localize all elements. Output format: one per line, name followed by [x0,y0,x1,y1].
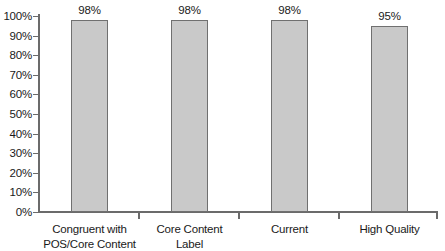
y-tick-mark [33,192,39,193]
bar-chart: 100% 90% 80% 70% 60% 50% 40% 30% 20% 10%… [0,0,445,251]
y-tick-mark [33,36,39,37]
bar-value-label: 95% [364,10,415,22]
bar-value-label: 98% [64,4,115,16]
y-tick-label: 80% [0,49,32,61]
x-tick-mark [238,213,240,219]
y-tick-mark [33,114,39,115]
y-tick-label: 60% [0,88,32,100]
y-tick-label: 30% [0,147,32,159]
bar-value-label: 98% [264,4,315,16]
category-label-line: High Quality [339,222,440,237]
x-tick-mark [138,213,140,219]
y-tick-label: 90% [0,30,32,42]
y-tick-mark [33,94,39,95]
y-tick-label: 0% [0,206,32,218]
y-tick-label: 40% [0,128,32,140]
y-tick-label: 100% [0,10,32,22]
x-tick-mark [338,213,340,219]
y-tick-mark [33,173,39,174]
y-tick-label: 10% [0,186,32,198]
category-label-high-quality: High Quality [339,222,440,237]
bar-value-label: 98% [164,4,215,16]
category-label-core-content-label: Core Content Label [129,222,250,251]
y-tick-mark [33,153,39,154]
category-label-line: Current [239,222,340,237]
x-tick-mark [436,213,438,219]
bar-core-content-label[interactable] [171,20,208,212]
y-tick-mark [33,55,39,56]
y-tick-mark [33,212,39,213]
y-tick-label: 70% [0,69,32,81]
y-tick-mark [33,75,39,76]
bar-congruent-with-pos-core-content[interactable] [71,20,108,212]
y-tick-label: 20% [0,167,32,179]
category-label-line: Label [129,237,250,251]
category-label-current: Current [239,222,340,237]
y-tick-label: 50% [0,108,32,120]
y-tick-mark [33,16,39,17]
y-tick-mark [33,134,39,135]
bar-high-quality[interactable] [371,26,408,212]
category-label-line: Core Content [129,222,250,237]
bar-current[interactable] [271,20,308,212]
